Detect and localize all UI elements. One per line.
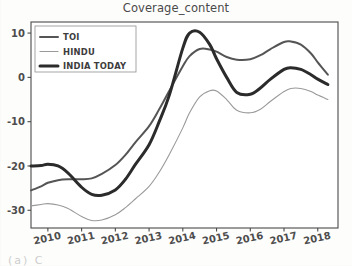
x-tick-label: 2018 bbox=[302, 230, 332, 247]
legend-label-hindu[interactable]: HINDU bbox=[63, 47, 95, 57]
y-axis-ticks: 100-10-20-30 bbox=[7, 28, 31, 216]
chart-legend[interactable]: TOIHINDUINDIA TODAY bbox=[35, 26, 136, 72]
y-tick-label: -10 bbox=[7, 116, 25, 127]
x-tick-label: 2016 bbox=[235, 230, 265, 247]
line-chart-plot: 100-10-20-30 201020112012201320142015201… bbox=[0, 0, 352, 266]
chart-title: Coverage_content bbox=[0, 1, 352, 15]
x-tick-label: 2015 bbox=[201, 230, 231, 247]
x-axis-ticks: 201020112012201320142015201620172018 bbox=[32, 228, 331, 246]
y-tick-label: -30 bbox=[7, 205, 25, 216]
legend-label-india-today[interactable]: INDIA TODAY bbox=[63, 61, 127, 71]
x-tick-label: 2013 bbox=[134, 230, 164, 247]
x-tick-label: 2010 bbox=[32, 230, 62, 247]
x-tick-label: 2014 bbox=[167, 230, 197, 247]
legend-label-toi[interactable]: TOI bbox=[63, 32, 80, 42]
x-tick-label: 2011 bbox=[66, 230, 96, 247]
x-tick-label: 2017 bbox=[269, 230, 299, 247]
y-tick-label: 10 bbox=[11, 28, 25, 39]
y-tick-label: 0 bbox=[18, 72, 25, 83]
figure-caption: (a) C bbox=[8, 254, 45, 266]
x-tick-label: 2012 bbox=[100, 230, 130, 247]
figure-container: Coverage_content 100-10-20-30 2010201120… bbox=[0, 0, 352, 266]
y-tick-label: -20 bbox=[7, 161, 25, 172]
